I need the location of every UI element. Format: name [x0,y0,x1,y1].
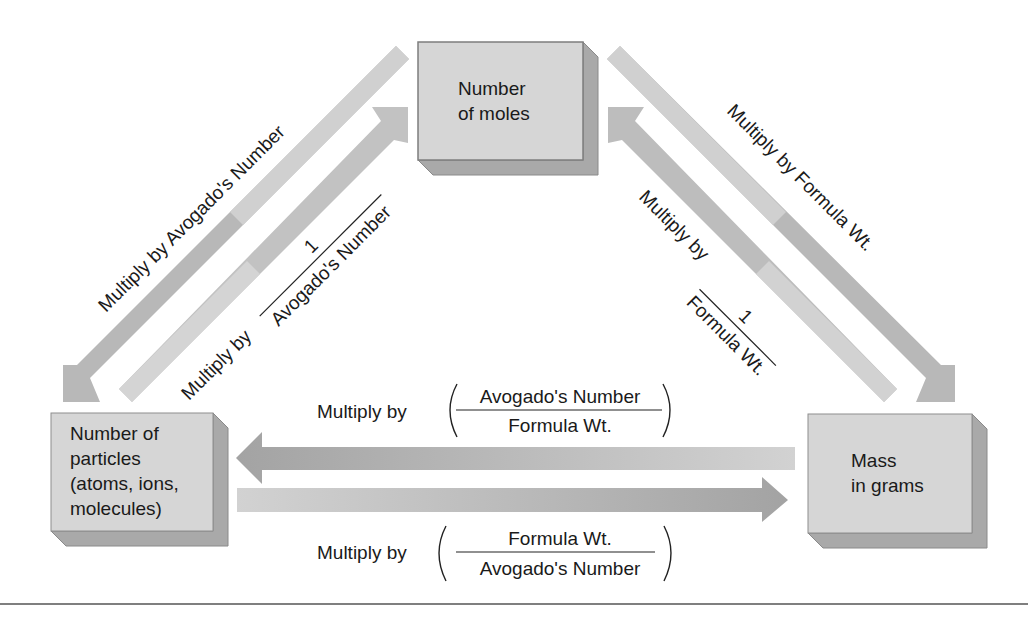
particles-line-1: Number of [70,423,159,444]
label-particles-to-mass: Multiply by Formula Wt. Avogado's Number [317,526,671,581]
box-mass-in-grams: Mass in grams [808,414,987,548]
label-prefix: Multiply by [317,542,407,563]
label-numerator: 1 [300,235,322,257]
moles-line-1: Number [458,78,526,99]
label-numerator: Avogado's Number [480,386,641,407]
label-numerator: Formula Wt. [508,528,611,549]
particles-line-2: particles [70,448,141,469]
label-denominator: Avogado's Number [480,558,641,579]
label-prefix: Multiply by [317,401,407,422]
label-denominator: Formula Wt. [508,415,611,436]
label-numerator: 1 [735,305,757,327]
arrow-mass-to-particles [236,432,795,484]
mass-line-2: in grams [851,475,924,496]
moles-line-2: of moles [458,103,530,124]
box-number-of-particles: Number of particles (atoms, ions, molecu… [51,413,228,546]
label-mass-to-particles: Multiply by Avogado's Number Formula Wt. [317,384,670,437]
box-number-of-moles: Number of moles [418,42,598,175]
particles-line-3: (atoms, ions, [70,473,179,494]
mole-conversion-diagram: Number of moles Number of particles (ato… [0,0,1033,618]
arrow-particles-to-mass [237,477,788,522]
label-denominator: Formula Wt. [683,292,771,380]
label-moles-to-particles: Multiply by Avogado's Number [94,120,289,315]
label-text: Multiply by Avogado's Number [94,120,289,315]
mass-line-1: Mass [851,450,896,471]
particles-line-4: molecules) [70,498,162,519]
